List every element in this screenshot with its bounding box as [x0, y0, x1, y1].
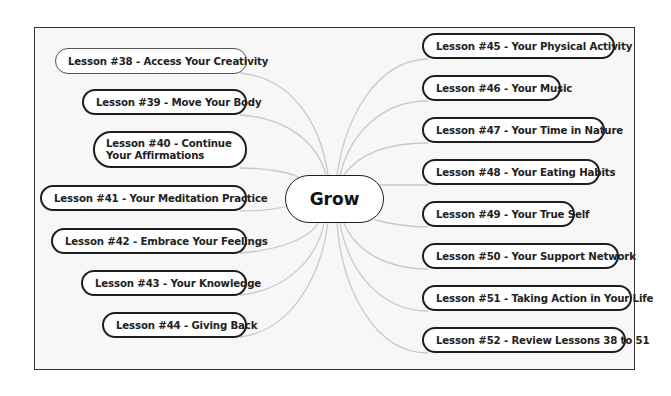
branch-label: Lesson #52 - Review Lessons 38 to 51 — [436, 335, 649, 346]
branch-lesson-49[interactable]: Lesson #49 - Your True Self — [422, 201, 575, 227]
branch-label: Lesson #48 - Your Eating Habits — [436, 167, 615, 178]
branch-label: Lesson #50 - Your Support Network — [436, 251, 636, 262]
branch-label: Lesson #47 - Your Time in Nature — [436, 125, 623, 136]
branch-label: Lesson #46 - Your Music — [436, 83, 572, 94]
branch-lesson-46[interactable]: Lesson #46 - Your Music — [422, 75, 561, 101]
branch-lesson-48[interactable]: Lesson #48 - Your Eating Habits — [422, 159, 600, 185]
branch-lesson-39[interactable]: Lesson #39 - Move Your Body — [82, 89, 247, 115]
branch-label: Lesson #42 - Embrace Your Feelings — [65, 236, 268, 247]
branch-lesson-40[interactable]: Lesson #40 - Continue Your Affirmations — [93, 131, 247, 168]
branch-label: Lesson #41 - Your Meditation Practice — [54, 193, 268, 204]
branch-label: Lesson #39 - Move Your Body — [96, 97, 262, 108]
branch-lesson-43[interactable]: Lesson #43 - Your Knowledge — [81, 270, 247, 296]
branch-lesson-38[interactable]: Lesson #38 - Access Your Creativity — [55, 48, 247, 74]
branch-lesson-52[interactable]: Lesson #52 - Review Lessons 38 to 51 — [422, 327, 626, 353]
branch-label: Lesson #44 - Giving Back — [116, 320, 257, 331]
branch-lesson-51[interactable]: Lesson #51 - Taking Action in Your Life — [422, 285, 632, 311]
branch-lesson-44[interactable]: Lesson #44 - Giving Back — [102, 312, 247, 338]
branch-label: Lesson #43 - Your Knowledge — [95, 278, 261, 289]
branch-lesson-47[interactable]: Lesson #47 - Your Time in Nature — [422, 117, 605, 143]
branch-lesson-45[interactable]: Lesson #45 - Your Physical Activity — [422, 33, 615, 59]
central-topic[interactable]: Grow — [285, 175, 384, 223]
branch-label: Lesson #38 - Access Your Creativity — [68, 56, 268, 67]
branch-label: Lesson #49 - Your True Self — [436, 209, 589, 220]
branch-lesson-41[interactable]: Lesson #41 - Your Meditation Practice — [40, 185, 247, 211]
branch-label: Lesson #45 - Your Physical Activity — [436, 41, 632, 52]
central-topic-label: Grow — [310, 189, 360, 209]
branch-lesson-42[interactable]: Lesson #42 - Embrace Your Feelings — [51, 228, 247, 254]
branch-label: Lesson #40 - Continue Your Affirmations — [106, 138, 235, 162]
branch-label: Lesson #51 - Taking Action in Your Life — [436, 293, 653, 304]
branch-lesson-50[interactable]: Lesson #50 - Your Support Network — [422, 243, 619, 269]
